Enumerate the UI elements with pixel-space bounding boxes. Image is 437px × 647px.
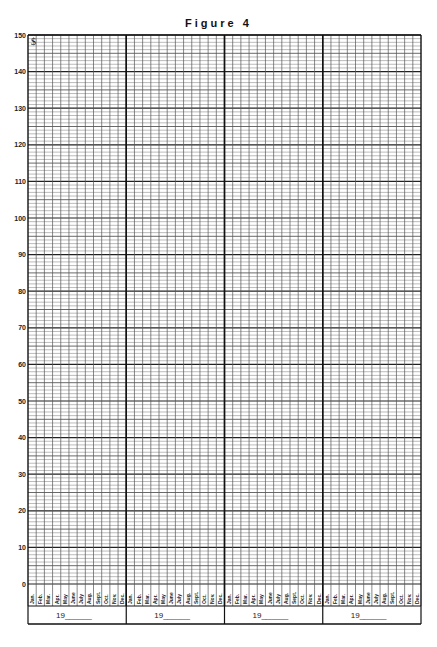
y-tick-label: 120 — [14, 141, 26, 148]
month-label: Mar. — [340, 593, 346, 604]
month-label: Jan. — [29, 593, 35, 604]
month-label: Nov. — [307, 593, 313, 604]
month-label: Aug. — [283, 592, 289, 604]
month-label: Apr. — [250, 594, 256, 604]
y-tick-label: 50 — [18, 398, 26, 405]
month-label: Jan. — [324, 593, 330, 604]
month-label: Feb. — [37, 593, 43, 604]
month-label: May — [62, 594, 68, 604]
month-label: July — [78, 594, 84, 604]
y-tick-label: 140 — [14, 68, 26, 75]
month-label: July — [373, 594, 379, 604]
y-tick-label: 60 — [18, 361, 26, 368]
year-label: 19______ — [253, 611, 289, 620]
month-label: Oct. — [103, 594, 109, 604]
year-label: 19______ — [351, 611, 387, 620]
y-tick-label: 40 — [18, 434, 26, 441]
month-label: Dec. — [414, 593, 420, 604]
month-label: May — [160, 594, 166, 604]
month-label: July — [275, 594, 281, 604]
month-label: Dec. — [316, 593, 322, 604]
year-label: 19______ — [154, 611, 190, 620]
month-label: Jan. — [127, 593, 133, 604]
month-label: Oct. — [299, 594, 305, 604]
y-tick-label: 90 — [18, 251, 26, 258]
month-label: May — [357, 594, 363, 604]
month-label: June — [168, 592, 174, 604]
y-tick-label: 100 — [14, 215, 26, 222]
month-label: May — [258, 594, 264, 604]
month-label: Sept. — [193, 591, 199, 604]
month-label: Mar. — [45, 593, 51, 604]
month-label: July — [176, 594, 182, 604]
month-label: Dec. — [119, 593, 125, 604]
month-label: June — [365, 592, 371, 604]
y-tick-label: 0 — [22, 581, 26, 588]
month-label: Dec. — [217, 593, 223, 604]
month-label: Apr. — [54, 594, 60, 604]
month-label: Apr. — [152, 594, 158, 604]
chart-grid: 0102030405060708090100110120130140150Jan… — [0, 0, 437, 647]
month-label: June — [267, 592, 273, 604]
month-label: Mar. — [242, 593, 248, 604]
month-label: Aug. — [381, 592, 387, 604]
month-label: Aug. — [185, 592, 191, 604]
y-tick-label: 20 — [18, 507, 26, 514]
year-label: 19______ — [56, 611, 92, 620]
month-label: Sept. — [291, 591, 297, 604]
y-tick-label: 150 — [14, 32, 26, 39]
y-tick-label: 130 — [14, 105, 26, 112]
y-tick-label: 10 — [18, 544, 26, 551]
month-label: June — [70, 592, 76, 604]
month-label: Nov. — [209, 593, 215, 604]
month-label: Feb. — [234, 593, 240, 604]
month-label: Mar. — [144, 593, 150, 604]
month-label: Aug. — [86, 592, 92, 604]
month-label: Feb. — [136, 593, 142, 604]
month-label: Nov. — [111, 593, 117, 604]
y-tick-label: 80 — [18, 288, 26, 295]
y-tick-label: 110 — [15, 178, 26, 185]
corner-symbol: $ — [31, 36, 36, 47]
month-label: Feb. — [332, 593, 338, 604]
y-tick-label: 30 — [18, 471, 26, 478]
month-label: Nov. — [406, 593, 412, 604]
y-tick-label: 70 — [18, 324, 26, 331]
month-label: Oct. — [398, 594, 404, 604]
month-label: Oct. — [201, 594, 207, 604]
month-label: Sept. — [95, 591, 101, 604]
month-label: Apr. — [348, 594, 354, 604]
month-label: Jan. — [226, 593, 232, 604]
month-label: Sept. — [389, 591, 395, 604]
